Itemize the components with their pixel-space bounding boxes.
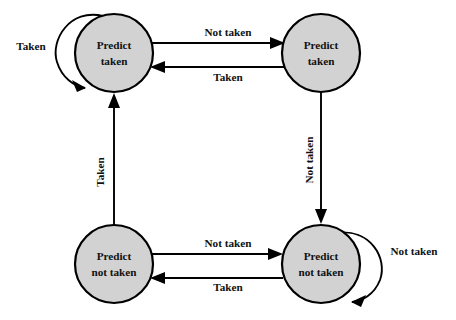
- state-circle-predict-not-taken-weak[interactable]: [75, 225, 153, 303]
- state-circle-predict-not-taken-strong[interactable]: [282, 225, 360, 303]
- state-label-line2-predict-taken-strong: taken: [101, 55, 129, 67]
- self-loop-bottom-right-arrowhead: [351, 295, 366, 307]
- state-label-line1-predict-not-taken-strong: Predict: [304, 250, 339, 262]
- state-label-line2-predict-not-taken-strong: not taken: [298, 266, 344, 278]
- transition-top-right-to-bottom-right: Not taken: [303, 92, 327, 224]
- self-loop-top-left-arrowhead: [72, 80, 86, 92]
- transition-label-self-loop-bottom-right: Not taken: [391, 245, 439, 257]
- diagram-canvas: Taken Not taken Taken Not taken Not take…: [0, 0, 456, 320]
- left-vertical-arrowhead: [108, 93, 120, 108]
- state-node-predict-taken-strong[interactable]: Predict taken: [75, 14, 153, 92]
- state-node-predict-not-taken-strong[interactable]: Predict not taken: [282, 225, 360, 303]
- transition-bottom-left-to-top-left: Taken: [94, 93, 120, 225]
- transition-label-top-taken: Taken: [213, 71, 243, 83]
- transition-label-left-taken: Taken: [94, 157, 106, 187]
- state-node-predict-not-taken-weak[interactable]: Predict not taken: [75, 225, 153, 303]
- bottom-forward-arrowhead: [268, 248, 283, 260]
- state-circle-predict-taken-strong[interactable]: [75, 14, 153, 92]
- transition-label-bottom-taken: Taken: [213, 281, 243, 293]
- transition-bottom-right-to-bottom-left: Taken: [150, 272, 283, 293]
- right-vertical-arrowhead: [315, 209, 327, 224]
- transition-label-right-not-taken: Not taken: [303, 136, 315, 184]
- transition-label-top-not-taken: Not taken: [205, 26, 253, 38]
- transition-top-left-to-top-right: Not taken: [151, 26, 285, 49]
- state-label-line1-predict-not-taken-weak: Predict: [97, 250, 132, 262]
- transition-bottom-left-to-bottom-right: Not taken: [151, 237, 283, 260]
- state-circle-predict-taken-weak[interactable]: [282, 14, 360, 92]
- transition-top-right-to-top-left: Taken: [150, 61, 284, 83]
- state-label-line1-predict-taken-weak: Predict: [304, 39, 339, 51]
- state-label-line2-predict-not-taken-weak: not taken: [91, 266, 137, 278]
- transition-label-bottom-not-taken: Not taken: [205, 237, 253, 249]
- state-label-line2-predict-taken-weak: taken: [308, 55, 336, 67]
- state-node-predict-taken-weak[interactable]: Predict taken: [282, 14, 360, 92]
- state-diagram: Taken Not taken Taken Not taken Not take…: [0, 0, 456, 320]
- transition-label-self-loop-top-left: Taken: [16, 40, 46, 52]
- state-label-line1-predict-taken-strong: Predict: [97, 39, 132, 51]
